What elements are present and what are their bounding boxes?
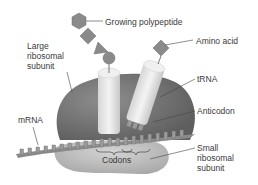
label-anticodon: Anticodon bbox=[197, 106, 235, 116]
label-large-ribosomal-subunit: Large ribosomal subunit bbox=[27, 41, 64, 71]
label-amino-acid: Amino acid bbox=[196, 36, 238, 46]
amino-acid-diamond bbox=[153, 40, 169, 56]
label-codons: Codons bbox=[102, 155, 131, 165]
large-ribosomal-subunit bbox=[57, 74, 195, 140]
label-growing-polypeptide: Growing polypeptide bbox=[105, 17, 183, 27]
hexagon-amino-acid bbox=[72, 13, 86, 29]
label-mrna: mRNA bbox=[18, 115, 43, 125]
triangle-amino-acid bbox=[94, 42, 108, 54]
circle-amino-acid bbox=[103, 52, 115, 64]
diamond-amino-acid bbox=[80, 28, 96, 44]
trna-left bbox=[98, 63, 120, 134]
label-small-ribosomal-subunit: Small ribosomal subunit bbox=[197, 143, 234, 173]
label-trna: tRNA bbox=[197, 74, 217, 84]
